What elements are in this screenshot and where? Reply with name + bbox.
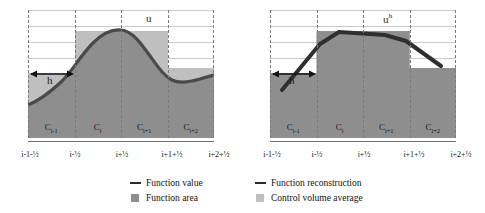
h-label: h bbox=[47, 74, 53, 86]
legend-label: Function value bbox=[146, 178, 203, 188]
tick-label: i+½ bbox=[358, 150, 371, 159]
cell-label-strip-right: Ci-1 Ci Ci+1 Ci+2 bbox=[270, 122, 456, 142]
axis-baseline-right bbox=[270, 141, 456, 142]
tick-label: i-½ bbox=[312, 150, 323, 159]
h-label: h bbox=[289, 74, 295, 86]
cell-boundary-dashed bbox=[121, 10, 122, 138]
legend-line-icon bbox=[129, 182, 141, 184]
tick-label: i-1-½ bbox=[21, 150, 39, 159]
cell-label: Ci+1 bbox=[363, 122, 410, 134]
cell-label-sub: i-1 bbox=[293, 127, 300, 134]
legend-column-left: Function value Function area bbox=[129, 176, 203, 206]
tick-label: i+½ bbox=[116, 150, 129, 159]
tick-label: i+1+½ bbox=[161, 150, 182, 159]
cell-label-sub: i bbox=[100, 127, 102, 134]
legend-column-right: Function reconstruction Control volume a… bbox=[254, 176, 363, 206]
legend: Function value Function area Function re… bbox=[0, 176, 485, 208]
h-span-arrow bbox=[270, 65, 322, 83]
legend-label: Function reconstruction bbox=[271, 178, 362, 188]
cell-label-sub: i-1 bbox=[51, 127, 58, 134]
tick-label: i+1+½ bbox=[403, 150, 424, 159]
curve-label-u: u bbox=[146, 12, 152, 24]
legend-label: Function area bbox=[146, 193, 198, 203]
cell-label: Ci+1 bbox=[121, 122, 168, 134]
tick-label-row-left: i-1-½ i-½ i+½ i+1+½ i+2+½ bbox=[0, 150, 242, 166]
legend-item-function-reconstruction: Function reconstruction bbox=[254, 176, 363, 189]
legend-item-function-value: Function value bbox=[129, 176, 203, 189]
cell-boundary-dashed bbox=[363, 10, 364, 138]
curve-label-superscript: h bbox=[389, 12, 393, 20]
curve-label-uh: uh bbox=[383, 12, 393, 25]
cell-label-sub: i+2 bbox=[189, 127, 198, 134]
cell-boundary-dashed bbox=[168, 10, 169, 138]
curve-label-base: u bbox=[146, 12, 152, 24]
cell-label: Ci+2 bbox=[410, 122, 457, 134]
figure-root: u h Ci-1 Ci Ci+1 Ci+2 i-1-½ i-½ i+½ i+1+… bbox=[0, 0, 485, 213]
cell-boundary-dashed bbox=[213, 10, 214, 138]
tick-label: i+2+½ bbox=[450, 150, 471, 159]
tick-label: i+2+½ bbox=[208, 150, 229, 159]
axis-baseline-left bbox=[28, 141, 214, 142]
legend-item-control-volume-average: Control volume average bbox=[254, 191, 363, 204]
cell-label-sub: i+1 bbox=[143, 127, 152, 134]
legend-swatch-icon bbox=[254, 194, 266, 202]
legend-label: Control volume average bbox=[271, 193, 363, 203]
tick-label: i-½ bbox=[70, 150, 81, 159]
cell-label: Ci-1 bbox=[28, 122, 75, 134]
panel-function-reconstruction: uh h Ci-1 Ci Ci+1 Ci+2 i-1-½ i-½ i+½ i+1… bbox=[242, 0, 485, 172]
panel-function-value: u h Ci-1 Ci Ci+1 Ci+2 i-1-½ i-½ i+½ i+1+… bbox=[0, 0, 242, 172]
legend-line-icon bbox=[254, 182, 266, 184]
legend-swatch-icon bbox=[129, 194, 141, 202]
plot-area-right: uh h bbox=[270, 10, 456, 138]
cell-boundary-dashed bbox=[455, 10, 456, 138]
cell-label: Ci bbox=[75, 122, 122, 134]
cell-label-sub: i bbox=[342, 127, 344, 134]
tick-label-row-right: i-1-½ i-½ i+½ i+1+½ i+2+½ bbox=[242, 150, 485, 166]
h-span-arrow bbox=[28, 65, 80, 83]
cell-label: Ci bbox=[317, 122, 364, 134]
cell-label: Ci+2 bbox=[168, 122, 215, 134]
plot-area-left: u h bbox=[28, 10, 214, 138]
cell-label: Ci-1 bbox=[270, 122, 317, 134]
cell-label-sub: i+1 bbox=[385, 127, 394, 134]
tick-label: i-1-½ bbox=[263, 150, 281, 159]
cell-label-sub: i+2 bbox=[431, 127, 440, 134]
cell-boundary-dashed bbox=[410, 10, 411, 138]
legend-item-function-area: Function area bbox=[129, 191, 203, 204]
cell-label-strip-left: Ci-1 Ci Ci+1 Ci+2 bbox=[28, 122, 214, 142]
